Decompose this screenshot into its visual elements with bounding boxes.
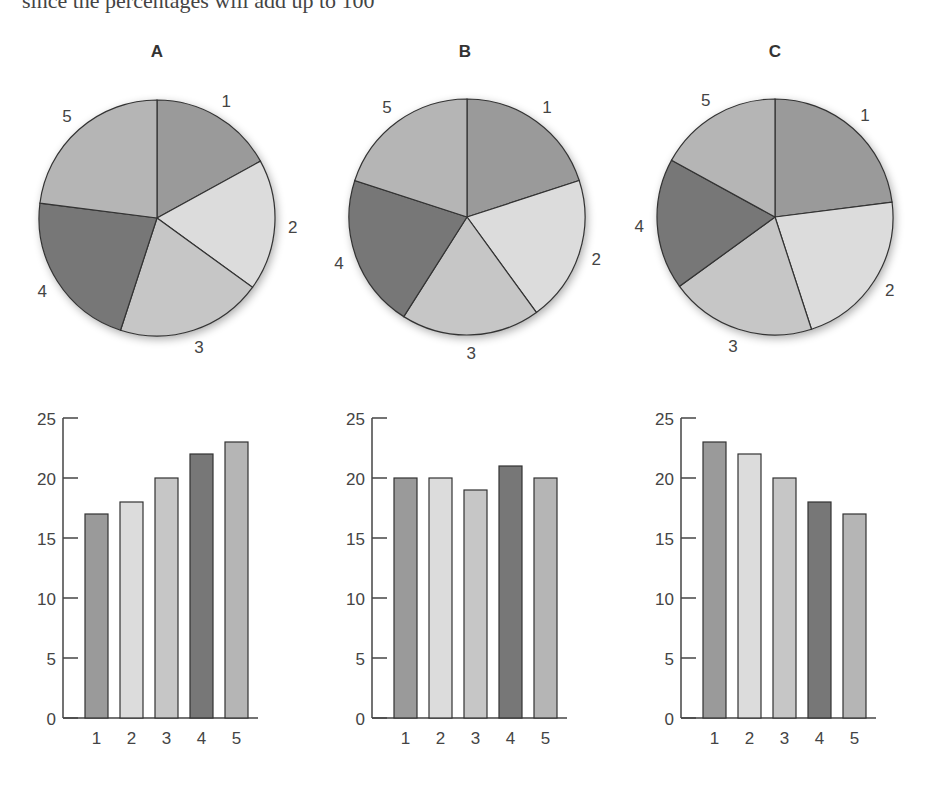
- x-tick-label: 4: [815, 729, 824, 748]
- x-tick-label: 3: [162, 729, 171, 748]
- pie-slice-label: 4: [334, 254, 343, 273]
- pie-slice-label: 4: [635, 217, 644, 236]
- pie-slice-1: [775, 99, 892, 217]
- bar-5: [534, 478, 557, 718]
- bar-2: [120, 502, 143, 718]
- pie-slice-label: 4: [37, 282, 46, 301]
- bar-3: [464, 490, 487, 718]
- x-tick-label: 5: [850, 729, 859, 748]
- y-tick-label: 20: [346, 470, 365, 489]
- y-tick-label: 5: [665, 650, 674, 669]
- x-tick-label: 5: [541, 729, 550, 748]
- pie-slice-label: 2: [592, 250, 601, 269]
- pie-chart-c: C12345: [635, 42, 895, 356]
- y-tick-label: 5: [47, 650, 56, 669]
- x-tick-label: 1: [401, 729, 410, 748]
- y-tick-label: 20: [655, 470, 674, 489]
- y-tick-label: 10: [346, 590, 365, 609]
- y-tick-label: 25: [37, 410, 56, 429]
- x-tick-label: 4: [506, 729, 515, 748]
- pie-slice-label: 1: [542, 98, 551, 117]
- pie-slice-label: 3: [728, 337, 737, 356]
- y-tick-label: 15: [37, 530, 56, 549]
- bar-1: [394, 478, 417, 718]
- pie-slice-label: 3: [467, 344, 476, 363]
- pie-slice-label: 2: [288, 218, 297, 237]
- pie-title: A: [151, 42, 163, 61]
- pie-title: B: [459, 42, 471, 61]
- bar-5: [225, 442, 248, 718]
- x-tick-label: 2: [127, 729, 136, 748]
- y-tick-label: 25: [346, 410, 365, 429]
- bar-chart-a: 051015202512345: [37, 410, 258, 748]
- y-tick-label: 0: [47, 710, 56, 729]
- y-tick-label: 5: [356, 650, 365, 669]
- x-tick-label: 4: [197, 729, 206, 748]
- bar-chart-b: 051015202512345: [346, 410, 567, 748]
- y-tick-label: 15: [655, 530, 674, 549]
- pie-chart-a: A12345: [37, 42, 297, 357]
- y-tick-label: 25: [655, 410, 674, 429]
- pie-slice-label: 1: [221, 92, 230, 111]
- y-tick-label: 0: [356, 710, 365, 729]
- chart-figure: A12345B12345C123450510152025123450510152…: [0, 0, 950, 794]
- pie-slice-label: 5: [701, 91, 710, 110]
- bar-4: [808, 502, 831, 718]
- bar-chart-c: 051015202512345: [655, 410, 876, 748]
- pie-slice-5: [40, 100, 157, 218]
- pie-title: C: [769, 42, 781, 61]
- pie-slice-label: 1: [860, 106, 869, 125]
- bar-2: [738, 454, 761, 718]
- x-tick-label: 3: [780, 729, 789, 748]
- x-tick-label: 5: [232, 729, 241, 748]
- y-tick-label: 15: [346, 530, 365, 549]
- y-tick-label: 0: [665, 710, 674, 729]
- x-tick-label: 2: [745, 729, 754, 748]
- bar-1: [85, 514, 108, 718]
- x-tick-label: 3: [471, 729, 480, 748]
- y-tick-label: 10: [37, 590, 56, 609]
- x-tick-label: 2: [436, 729, 445, 748]
- pie-slice-label: 5: [382, 98, 391, 117]
- pie-slice-label: 3: [194, 338, 203, 357]
- pie-slice-label: 2: [885, 281, 894, 300]
- y-tick-label: 20: [37, 470, 56, 489]
- bar-1: [703, 442, 726, 718]
- bar-5: [843, 514, 866, 718]
- pie-slice-label: 5: [62, 107, 71, 126]
- x-tick-label: 1: [92, 729, 101, 748]
- bar-4: [190, 454, 213, 718]
- x-tick-label: 1: [710, 729, 719, 748]
- pie-chart-b: B12345: [334, 42, 601, 363]
- bar-3: [773, 478, 796, 718]
- bar-4: [499, 466, 522, 718]
- y-tick-label: 10: [655, 590, 674, 609]
- bar-2: [429, 478, 452, 718]
- bar-3: [155, 478, 178, 718]
